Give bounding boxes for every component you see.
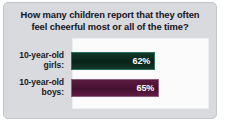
bar-track-boys: 65%: [69, 79, 203, 97]
bar-row-boys: 10-year-old boys: 65%: [4, 79, 218, 97]
chart-card: How many children report that they often…: [3, 2, 217, 119]
bar-value-girls: 62%: [133, 56, 154, 66]
bar-rows: 10-year-old girls: 62% 10-year-old boys:…: [4, 36, 218, 112]
bar-row-girls: 10-year-old girls: 62%: [4, 52, 218, 70]
category-label-girls: 10-year-old girls:: [4, 51, 69, 70]
chart-title: How many children report that they often…: [12, 9, 208, 32]
bar-boys: 65%: [71, 79, 159, 97]
category-label-boys: 10-year-old boys:: [4, 78, 69, 97]
bar-girls: 62%: [71, 52, 155, 70]
bar-track-girls: 62%: [69, 52, 203, 70]
bar-value-boys: 65%: [137, 83, 158, 93]
